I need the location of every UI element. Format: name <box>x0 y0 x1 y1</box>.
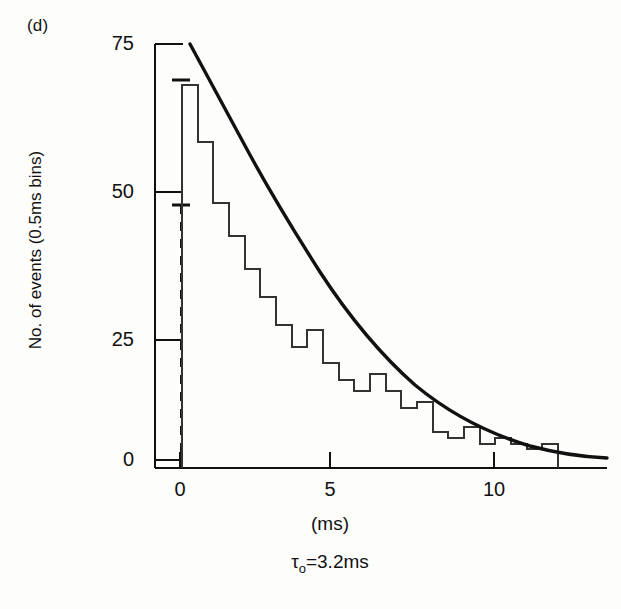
figure-panel-d: (d) No. of events (0.5ms bins) 75 50 25 … <box>0 0 621 609</box>
exponential-fit-curve <box>190 44 607 458</box>
histogram-outline <box>182 85 558 468</box>
plot-area <box>0 0 621 609</box>
